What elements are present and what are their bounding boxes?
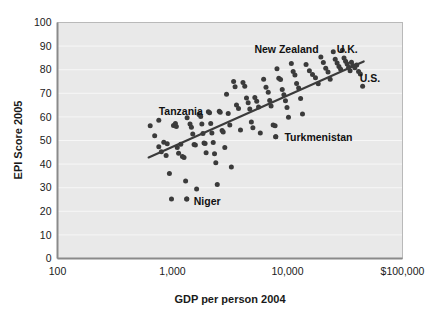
y-tick-label: 0: [46, 252, 52, 264]
scatter-point: [208, 121, 213, 126]
y-tick-label: 40: [40, 158, 52, 170]
scatter-point: [286, 115, 291, 120]
scatter-point: [249, 120, 254, 125]
y-tick-label: 30: [40, 181, 52, 193]
scatter-point: [226, 111, 231, 116]
scatter-point: [254, 99, 259, 104]
scatter-point: [227, 122, 232, 127]
x-tick-label: 10,000: [271, 265, 303, 277]
scatter-point: [278, 77, 283, 82]
scatter-point: [229, 164, 234, 169]
scatter-point: [266, 90, 271, 95]
scatter-point: [294, 81, 299, 86]
annotation-marker: [273, 134, 278, 139]
y-tick-label: 20: [40, 205, 52, 217]
annotation-label: U.S.: [360, 72, 381, 84]
annotation-label: U.K.: [337, 43, 358, 55]
scatter-point: [215, 182, 220, 187]
scatter-point: [199, 121, 204, 126]
scatter-point: [331, 49, 336, 54]
x-axis-title: GDP per person 2004: [174, 293, 286, 305]
scatter-point: [318, 54, 323, 59]
scatter-point: [273, 123, 278, 128]
scatter-point: [176, 151, 181, 156]
scatter-point: [242, 84, 247, 89]
scatter-point: [213, 160, 218, 165]
x-tick-label: 1,000: [159, 265, 185, 277]
scatter-point: [231, 79, 236, 84]
annotation-label: New Zealand: [254, 43, 318, 55]
annotation-label: Turkmenistan: [284, 131, 352, 143]
scatter-point: [211, 140, 216, 145]
scatter-point: [236, 106, 241, 111]
epi-gdp-scatter-chart: 0102030405060708090100 1001,00010,000$10…: [0, 0, 443, 313]
scatter-point: [274, 66, 279, 71]
scatter-point: [233, 84, 238, 89]
annotation-marker: [184, 197, 189, 202]
scatter-point: [222, 145, 227, 150]
y-tick-label: 70: [40, 87, 52, 99]
scatter-point: [298, 96, 303, 101]
x-tick-label: $100,000: [381, 265, 425, 277]
annotation-label: Tanzania: [159, 105, 203, 117]
scatter-point: [261, 77, 266, 82]
scatter-point: [165, 141, 170, 146]
scatter-point: [221, 130, 226, 135]
y-axis-title: EPI Score 2005: [12, 101, 24, 180]
y-tick-label: 50: [40, 134, 52, 146]
scatter-point: [169, 197, 174, 202]
scatter-point: [326, 70, 331, 75]
chart-canvas: 0102030405060708090100 1001,00010,000$10…: [0, 0, 443, 313]
y-tick-label: 10: [40, 229, 52, 241]
scatter-point: [360, 84, 365, 89]
y-tick-label: 60: [40, 111, 52, 123]
scatter-point: [224, 92, 229, 97]
scatter-point: [203, 141, 208, 146]
scatter-point: [148, 123, 153, 128]
scatter-point: [164, 153, 169, 158]
scatter-point: [280, 87, 285, 92]
scatter-point: [238, 128, 243, 133]
scatter-point: [194, 186, 199, 191]
scatter-point: [190, 131, 195, 136]
scatter-point: [292, 72, 297, 77]
scatter-point: [152, 133, 157, 138]
scatter-point: [174, 124, 179, 129]
scatter-point: [246, 100, 251, 105]
scatter-point: [284, 105, 289, 110]
scatter-point: [313, 75, 318, 80]
y-tick-label: 90: [40, 40, 52, 52]
scatter-point: [218, 110, 223, 115]
scatter-point: [263, 85, 268, 90]
scatter-point: [321, 60, 326, 65]
y-tick-label: 80: [40, 63, 52, 75]
scatter-point: [183, 179, 188, 184]
scatter-point: [283, 98, 288, 103]
scatter-point: [304, 62, 309, 67]
scatter-point: [156, 144, 161, 149]
scatter-point: [204, 150, 209, 155]
y-tick-label: 100: [34, 16, 52, 28]
scatter-point: [193, 142, 198, 147]
scatter-point: [156, 118, 161, 123]
scatter-point: [250, 125, 255, 130]
x-tick-label: 100: [49, 265, 67, 277]
scatter-point: [212, 151, 217, 156]
scatter-point: [244, 96, 249, 101]
scatter-point: [289, 61, 294, 66]
scatter-point: [182, 155, 187, 160]
scatter-point: [207, 110, 212, 115]
annotation-label: Niger: [194, 195, 221, 207]
scatter-point: [189, 125, 194, 130]
scatter-point: [300, 112, 305, 117]
scatter-point: [258, 130, 263, 135]
scatter-point: [209, 130, 214, 135]
scatter-point: [167, 171, 172, 176]
